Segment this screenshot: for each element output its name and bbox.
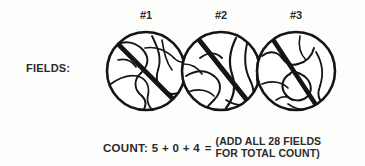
total-count-note: (ADD ALL 28 FIELDS FOR TOTAL COUNT) xyxy=(216,136,322,160)
field-circle-3 xyxy=(257,32,335,110)
total-count-note-line-2: FOR TOTAL COUNT) xyxy=(216,148,322,160)
fiber-count-figure: FIELDS: #1 #2 #3 xyxy=(0,0,365,166)
count-summary-row: COUNT: 5 + 0 + 4 = (ADD ALL 28 FIELDS FO… xyxy=(103,136,321,160)
total-count-note-line-1: (ADD ALL 28 FIELDS xyxy=(216,136,322,148)
equals-sign: = xyxy=(205,142,212,154)
count-expression: COUNT: 5 + 0 + 4 xyxy=(103,142,200,154)
field-circle-1 xyxy=(107,32,186,113)
field-circle-2 xyxy=(182,32,260,114)
